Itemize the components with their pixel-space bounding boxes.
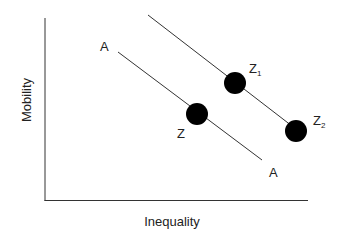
point-z1-label: Z1	[249, 61, 262, 78]
diagram: A A Z Z1 Z2 Inequality Mobility	[0, 0, 344, 231]
line-upper	[148, 15, 292, 126]
point-z2	[285, 120, 307, 142]
point-z-label: Z	[177, 126, 185, 141]
x-axis-label: Inequality	[144, 214, 200, 229]
point-z1-subscript: 1	[257, 69, 262, 78]
line-a-end-label: A	[269, 165, 278, 180]
y-axis-label: Mobility	[19, 77, 34, 122]
point-z2-label: Z2	[313, 113, 326, 130]
point-z1	[224, 72, 246, 94]
point-z	[186, 103, 208, 125]
point-z2-subscript: 2	[321, 121, 326, 130]
line-a-start-label: A	[100, 39, 109, 54]
